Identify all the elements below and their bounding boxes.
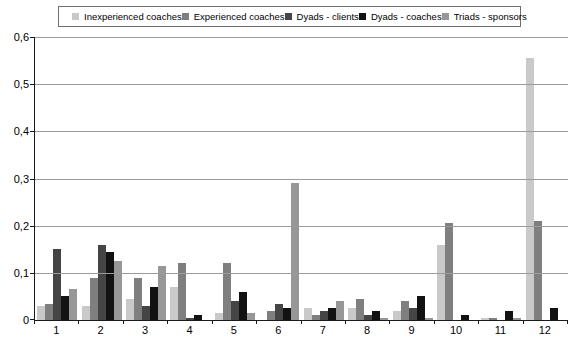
x-tick-label: 10 [434, 324, 478, 336]
bar-experienced-coaches-cat7 [312, 315, 320, 320]
bar-experienced-coaches-cat3 [134, 278, 142, 320]
gridline [35, 84, 568, 85]
legend-swatch-icon [182, 13, 189, 20]
bar-dyads-coaches-cat4 [194, 315, 202, 320]
gridline [35, 37, 568, 38]
gridline [35, 179, 568, 180]
legend-label: Dyads - coaches [371, 11, 442, 22]
legend-swatch-icon [72, 13, 79, 20]
y-axis-tick [30, 131, 35, 132]
legend-swatch-icon [442, 13, 449, 20]
bar-experienced-coaches-cat10 [445, 223, 453, 320]
x-tick-label: 3 [123, 324, 167, 336]
y-axis-tick [30, 179, 35, 180]
x-tick-label: 2 [78, 324, 122, 336]
legend-item: Experienced coaches [182, 11, 285, 22]
bar-inexperienced-coaches-cat1 [37, 306, 45, 320]
bar-triads-sponsors-cat9 [425, 318, 433, 320]
y-tick-label: 0,1 [0, 267, 29, 278]
y-axis-tick [30, 84, 35, 85]
x-tick-label: 12 [523, 324, 567, 336]
y-tick-label: 0,4 [0, 126, 29, 137]
bar-experienced-coaches-cat2 [90, 278, 98, 320]
bar-inexperienced-coaches-cat7 [304, 308, 312, 320]
x-tick-label: 11 [478, 324, 522, 336]
x-tick-label: 8 [345, 324, 389, 336]
bar-inexperienced-coaches-cat10 [437, 245, 445, 320]
bar-triads-sponsors-cat7 [336, 301, 344, 320]
bar-inexperienced-coaches-cat5 [215, 313, 223, 320]
gridline [35, 131, 568, 132]
bar-dyads-coaches-cat12 [550, 308, 558, 320]
x-tick-label: 6 [256, 324, 300, 336]
bar-experienced-coaches-cat12 [534, 221, 542, 320]
bar-dyads-clients-cat5 [231, 301, 239, 320]
bar-experienced-coaches-cat6 [267, 311, 275, 320]
y-axis-tick [30, 226, 35, 227]
bar-dyads-clients-cat3 [142, 306, 150, 320]
bar-triads-sponsors-cat3 [158, 266, 166, 320]
legend-label: Inexperienced coaches [84, 11, 182, 22]
bar-dyads-clients-cat1 [53, 249, 61, 320]
x-tick-label: 7 [301, 324, 345, 336]
bar-experienced-coaches-cat8 [356, 299, 364, 320]
bar-inexperienced-coaches-cat8 [348, 308, 356, 320]
chart-legend: Inexperienced coachesExperienced coaches… [58, 6, 521, 27]
bar-experienced-coaches-cat9 [401, 301, 409, 320]
bar-inexperienced-coaches-cat12 [526, 58, 534, 320]
bar-dyads-clients-cat4 [186, 318, 194, 320]
x-tick-label: 9 [389, 324, 433, 336]
bar-inexperienced-coaches-cat9 [393, 311, 401, 320]
bar-experienced-coaches-cat11 [489, 318, 497, 320]
y-tick-label: 0,2 [0, 220, 29, 231]
bar-inexperienced-coaches-cat3 [126, 299, 134, 320]
bar-dyads-coaches-cat3 [150, 287, 158, 320]
bar-triads-sponsors-cat5 [247, 313, 255, 320]
legend-label: Experienced coaches [194, 11, 285, 22]
y-axis-tick [30, 273, 35, 274]
bar-triads-sponsors-cat8 [380, 318, 388, 320]
legend-item: Inexperienced coaches [72, 11, 182, 22]
y-tick-label: 0,6 [0, 32, 29, 43]
bar-dyads-coaches-cat7 [328, 308, 336, 320]
bar-triads-sponsors-cat6 [291, 183, 299, 320]
x-axis-tick [567, 320, 568, 324]
y-tick-label: 0 [0, 315, 29, 326]
bar-inexperienced-coaches-cat11 [481, 318, 489, 320]
legend-item: Dyads - coaches [359, 11, 442, 22]
bar-dyads-coaches-cat9 [417, 296, 425, 320]
bar-dyads-coaches-cat11 [505, 311, 513, 320]
x-tick-label: 5 [212, 324, 256, 336]
bar-dyads-coaches-cat5 [239, 292, 247, 320]
bar-dyads-clients-cat8 [364, 315, 372, 320]
bar-chart: Inexperienced coachesExperienced coaches… [0, 0, 581, 349]
plot-area [34, 37, 568, 321]
y-tick-label: 0,5 [0, 79, 29, 90]
gridline [35, 273, 568, 274]
x-tick-label: 4 [167, 324, 211, 336]
legend-item: Dyads - clients [285, 11, 359, 22]
bar-dyads-clients-cat7 [320, 311, 328, 320]
bar-experienced-coaches-cat1 [45, 304, 53, 321]
bar-dyads-clients-cat6 [275, 304, 283, 321]
legend-item: Triads - sponsors [442, 11, 527, 22]
gridline [35, 226, 568, 227]
bar-dyads-clients-cat2 [98, 245, 106, 320]
legend-swatch-icon [359, 13, 366, 20]
bar-triads-sponsors-cat1 [69, 289, 77, 320]
bar-dyads-clients-cat9 [409, 308, 417, 320]
bar-dyads-coaches-cat8 [372, 311, 380, 320]
y-axis-labels: 00,10,20,30,40,50,6 [0, 37, 29, 320]
legend-swatch-icon [285, 13, 292, 20]
x-tick-label: 1 [34, 324, 78, 336]
y-axis-tick [30, 37, 35, 38]
y-tick-label: 0,3 [0, 173, 29, 184]
legend-label: Triads - sponsors [454, 11, 527, 22]
bar-inexperienced-coaches-cat2 [82, 306, 90, 320]
legend-label: Dyads - clients [297, 11, 359, 22]
bar-dyads-coaches-cat6 [283, 308, 291, 320]
bar-dyads-coaches-cat10 [461, 315, 469, 320]
bar-inexperienced-coaches-cat4 [170, 287, 178, 320]
bar-dyads-coaches-cat2 [106, 252, 114, 320]
bar-triads-sponsors-cat2 [114, 261, 122, 320]
